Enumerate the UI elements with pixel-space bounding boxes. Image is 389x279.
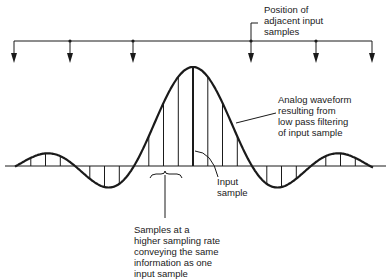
analog-waveform-leader — [236, 113, 276, 123]
adjacent-sample-marker — [248, 39, 254, 63]
down-arrow-icon — [130, 53, 136, 63]
down-arrow-icon — [67, 53, 73, 63]
analog-waveform-label: Analog waveform resulting from low pass … — [278, 94, 351, 138]
adjacent-sample-marker — [369, 41, 375, 63]
higher-rate-bracket — [150, 171, 182, 178]
down-arrow-icon — [11, 53, 17, 63]
adjacent-sample-positions-rail — [11, 39, 375, 63]
adjacent-sample-marker — [130, 39, 136, 63]
down-arrow-icon — [248, 53, 254, 63]
adjacent-sample-marker — [11, 41, 17, 63]
higher-rate-samples-label: Samples at a higher sampling rate convey… — [134, 224, 220, 279]
adjacent-positions-leader — [251, 23, 258, 41]
down-arrow-icon — [313, 53, 319, 63]
down-arrow-icon — [369, 53, 375, 63]
adjacent-sample-marker — [67, 39, 73, 63]
adjacent-positions-label: Position of adjacent input samples — [264, 4, 323, 37]
input-sample-leader — [195, 151, 218, 177]
input-sample-label: Input sample — [217, 176, 248, 198]
adjacent-sample-marker — [313, 39, 319, 63]
